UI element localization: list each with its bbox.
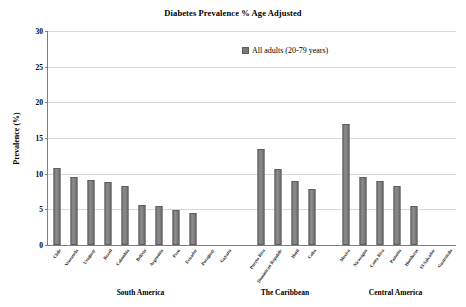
bar-slot: [252, 31, 269, 245]
category-label-text: Paraguay: [200, 248, 215, 266]
y-axis-title: Prevalence (%): [9, 31, 23, 245]
category-label-text: Colombia: [115, 248, 130, 267]
y-tick-label: 0: [39, 241, 43, 250]
category-label-text: Cuba: [306, 248, 316, 260]
y-axis-title-text: Prevalence (%): [12, 112, 21, 165]
y-tick-label: 15: [36, 134, 44, 143]
category-label-text: Brazil: [102, 248, 113, 261]
bar-slot: [354, 31, 371, 245]
category-label-text: El Salvador: [418, 248, 435, 270]
bar-slot: [201, 31, 218, 245]
bar-slot: [65, 31, 82, 245]
bar[interactable]: [189, 213, 196, 245]
category-label-text: Mexico: [338, 248, 350, 263]
category-label-text: Puerto Rico: [248, 248, 265, 270]
chart-container: Diabetes Prevalence % Age Adjusted All a…: [0, 0, 466, 307]
category-label-text: Costa Rica: [368, 248, 384, 268]
bar[interactable]: [257, 149, 264, 245]
bar-slot: [218, 31, 235, 245]
bar-slot: [286, 31, 303, 245]
category-label-text: Bolivia: [135, 248, 147, 262]
category-label-text: Argentina: [148, 248, 164, 267]
plot-area: 051015202530: [47, 31, 456, 246]
category-label-text: Uruguay: [82, 248, 96, 265]
bar[interactable]: [308, 189, 315, 245]
y-tick-label: 30: [36, 27, 44, 36]
bar-slot: [167, 31, 184, 245]
category-label-text: Haiti: [290, 248, 300, 259]
y-tick-label: 25: [36, 62, 44, 71]
bar-slot: [405, 31, 422, 245]
category-label-text: Guatemala: [436, 248, 453, 269]
bar-slot: [82, 31, 99, 245]
group-label: South America: [117, 288, 165, 297]
bar-slot: [388, 31, 405, 245]
y-tick-label: 10: [36, 169, 44, 178]
bar-slot: [303, 31, 320, 245]
category-label-text: Peru: [171, 248, 181, 259]
bar-slot: [184, 31, 201, 245]
category-label-text: Chile: [51, 248, 61, 259]
category-label-text: Ecuador: [184, 248, 198, 265]
bar-slot: [422, 31, 439, 245]
bar-slot: [371, 31, 388, 245]
bar-slot: [337, 31, 354, 245]
chart-title: Diabetes Prevalence % Age Adjusted: [0, 8, 466, 18]
y-tick-label: 5: [39, 205, 43, 214]
y-tick-label: 20: [36, 98, 44, 107]
category-label-text: Panama: [388, 248, 401, 264]
bar[interactable]: [138, 205, 145, 245]
bar[interactable]: [155, 206, 162, 245]
bar-slot: [269, 31, 286, 245]
category-label-text: Guyana: [219, 248, 232, 264]
bar[interactable]: [410, 206, 417, 245]
category-label-text: Honduras: [403, 248, 418, 267]
category-label-text: Venezuela: [63, 248, 78, 267]
category-label-text: Nicaragua: [352, 248, 368, 268]
group-label: Central America: [369, 288, 423, 297]
bar[interactable]: [121, 186, 128, 245]
y-tick-mark: [45, 245, 48, 246]
bar[interactable]: [53, 168, 60, 245]
bar-slot: [150, 31, 167, 245]
bar[interactable]: [342, 124, 349, 245]
group-label: The Caribbean: [261, 288, 310, 297]
bar[interactable]: [359, 177, 366, 245]
bar[interactable]: [172, 210, 179, 245]
bar-slot: [133, 31, 150, 245]
bar-slot: [99, 31, 116, 245]
bar-slot: [439, 31, 456, 245]
bar-slot: [48, 31, 65, 245]
bars-layer: [48, 31, 456, 245]
bar[interactable]: [70, 177, 77, 245]
bar-slot: [116, 31, 133, 245]
